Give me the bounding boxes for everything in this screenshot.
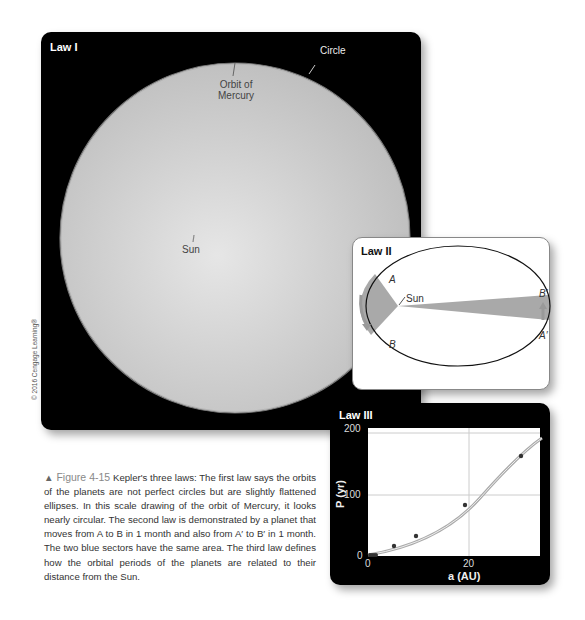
orbit-label-line-1: Orbit of <box>218 79 254 90</box>
sun-label: Sun <box>406 293 424 304</box>
point-b-label: B <box>389 339 396 350</box>
law-3-panel: Law III 200 100 0 0 20 a (AU) P (yr) <box>330 403 550 585</box>
point-b-prime-label: B′ <box>539 288 548 299</box>
sun-leader-line <box>399 297 405 305</box>
period-distance-chart <box>330 403 550 585</box>
y-tick-200: 200 <box>344 423 361 434</box>
circle-label: Circle <box>320 45 346 56</box>
y-tick-100: 100 <box>344 489 361 500</box>
circle-leader-line <box>309 65 315 74</box>
y-axis-label: P (yr) <box>334 480 346 508</box>
copyright-credit: © 2016 Cengage Learning® <box>31 319 38 400</box>
law-2-panel: Law II A Sun B B′ A′ <box>352 237 550 390</box>
sun-label: Sun <box>182 244 200 255</box>
x-tick-0: 0 <box>365 558 371 569</box>
orbit-label-line-2: Mercury <box>218 90 254 101</box>
plot-area <box>368 428 540 556</box>
caption-triangle-icon: ▲ <box>44 472 54 483</box>
point-a-prime-label: A′ <box>539 330 548 341</box>
point-a-label: A <box>389 274 396 285</box>
y-tick-0: 0 <box>357 550 363 561</box>
orbit-of-mercury-label: Orbit of Mercury <box>218 79 254 101</box>
elliptical-orbit-drawing <box>353 238 551 391</box>
figure-number: Figure 4-15 <box>56 471 110 483</box>
caption-text: Kepler's three laws: The first law says … <box>44 472 316 582</box>
x-tick-20: 20 <box>463 558 474 569</box>
x-axis-label: a (AU) <box>448 570 480 582</box>
figure-caption: ▲ Figure 4-15 Kepler's three laws: The f… <box>44 470 316 584</box>
